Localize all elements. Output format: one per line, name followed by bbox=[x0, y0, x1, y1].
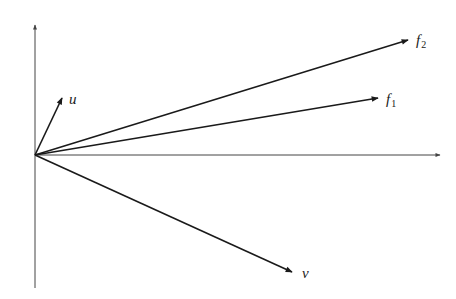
label-f2: f2 bbox=[416, 33, 426, 50]
label-f2-subscript: 2 bbox=[421, 39, 426, 50]
label-f2-text: f bbox=[416, 32, 420, 48]
vector-u bbox=[35, 98, 62, 155]
label-f1-subscript: 1 bbox=[391, 98, 396, 109]
vector-f1 bbox=[35, 98, 378, 155]
vector-f2 bbox=[35, 40, 408, 155]
vector-v bbox=[35, 155, 292, 272]
label-f1: f1 bbox=[386, 92, 396, 109]
label-u-text: u bbox=[69, 91, 77, 107]
vector-diagram: u f2 f1 v bbox=[0, 0, 456, 299]
label-u: u bbox=[69, 92, 77, 107]
diagram-svg bbox=[0, 0, 456, 299]
label-f1-text: f bbox=[386, 91, 390, 107]
label-v: v bbox=[302, 266, 309, 281]
label-v-text: v bbox=[302, 265, 309, 281]
